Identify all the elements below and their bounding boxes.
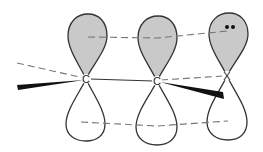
wedge-bond-left: [17, 80, 84, 90]
p-orbital-lower-lobe-c2: [136, 81, 177, 145]
wedge-bond-c2-right: [160, 82, 224, 99]
atom-label-x: X: [223, 70, 231, 82]
dashed-bond-left: [17, 63, 84, 78]
atom-label-c2: C: [153, 75, 161, 87]
p-orbital-upper-lobe-x: [209, 13, 248, 76]
atom-label-c1: C: [82, 73, 90, 85]
p-orbital-upper-lobe-c1: [68, 14, 107, 79]
orbital-diagram: C C X: [0, 0, 263, 152]
dashed-bond-c2-x: [161, 76, 223, 80]
bond-c1-c2: [90, 79, 153, 81]
p-orbital-lower-lobe-c1: [66, 79, 105, 141]
p-orbital-lower-lobe-x: [207, 76, 247, 140]
p-orbital-upper-lobe-c2: [138, 16, 177, 81]
